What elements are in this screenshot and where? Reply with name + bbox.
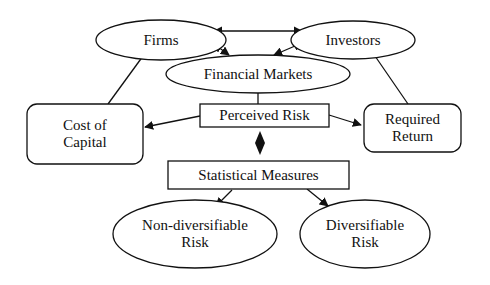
node-non-diversifiable-line2: Risk — [181, 234, 209, 251]
line-firms-cost — [108, 56, 143, 104]
node-perceived-risk: Perceived Risk — [200, 106, 329, 124]
node-financial-markets: Financial Markets — [166, 65, 350, 83]
node-statistical-measures: Statistical Measures — [168, 166, 349, 184]
line-investors-required — [375, 56, 408, 104]
node-required-return-line2: Return — [392, 128, 433, 145]
node-non-diversifiable-line1: Non-diversifiable — [142, 217, 248, 234]
node-firms: Firms — [96, 31, 226, 49]
node-cost-of-capital-line2: Capital — [63, 134, 106, 151]
node-diversifiable-risk: Diversifiable Risk — [300, 215, 430, 253]
node-cost-of-capital: Cost of Capital — [27, 115, 143, 153]
node-required-return-line1: Required — [385, 111, 440, 128]
arrow-stat-div — [307, 189, 328, 206]
node-investors: Investors — [291, 31, 415, 49]
node-required-return: Required Return — [364, 109, 461, 147]
node-non-diversifiable-risk: Non-diversifiable Risk — [113, 215, 277, 253]
arrow-perceived-cost — [145, 116, 200, 127]
node-cost-of-capital-line1: Cost of — [63, 117, 107, 134]
arrow-perceived-required — [329, 115, 361, 125]
diamond-icon — [255, 131, 265, 155]
node-diversifiable-line2: Risk — [351, 234, 379, 251]
node-diversifiable-line1: Diversifiable — [326, 217, 404, 234]
